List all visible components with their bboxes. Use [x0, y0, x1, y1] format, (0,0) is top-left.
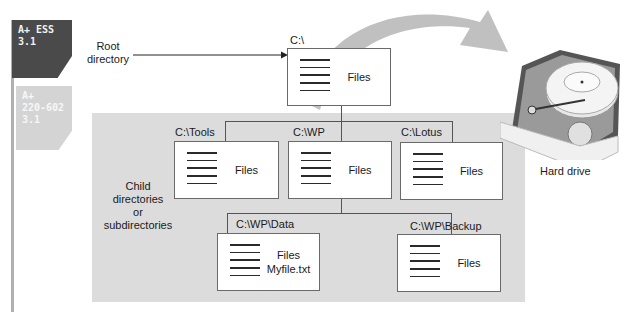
file-list-icon [301, 152, 331, 190]
file-list-icon [300, 59, 330, 97]
arrow-right-icon [133, 50, 289, 60]
directory-box-tools[interactable]: Files [174, 141, 279, 199]
directory-box-lotus[interactable]: Files [400, 142, 503, 200]
badge-title: A+ [22, 90, 66, 102]
file-list-icon [410, 245, 440, 283]
dir-path-wp: C:\WP [293, 126, 325, 138]
dir-path-lotus: C:\Lotus [401, 126, 442, 138]
hard-drive-icon [500, 30, 628, 160]
badge-a-plus-220-602: A+ 220-602 3.1 [16, 86, 72, 150]
file-list-icon [187, 152, 217, 190]
files-label: Files [460, 164, 483, 178]
connector [227, 213, 452, 214]
badge-a-plus-ess: A+ ESS 3.1 [12, 20, 72, 78]
connector [225, 121, 226, 141]
connector [341, 106, 342, 141]
files-label: Files [277, 248, 300, 262]
files-label: Files [457, 256, 480, 270]
badge-section: 3.1 [18, 36, 66, 48]
dir-path-wp-data: C:\WP\Data [236, 218, 294, 230]
badge-title: A+ ESS [18, 24, 66, 36]
file-list-icon [230, 244, 260, 282]
dir-path-root: C:\ [290, 34, 304, 46]
file-list-icon [413, 153, 443, 191]
hard-drive-label: Hard drive [540, 165, 591, 177]
dir-path-tools: C:\Tools [175, 126, 215, 138]
badge-exam: 220-602 [22, 102, 66, 114]
connector [225, 121, 452, 122]
connector [227, 213, 228, 233]
connector [341, 199, 342, 213]
files-label: Files [235, 163, 258, 177]
files-label: Files [347, 70, 370, 84]
root-directory-label: Root directory [86, 40, 130, 66]
file-name: Myfile.txt [267, 262, 310, 276]
files-label: Files [348, 163, 371, 177]
directory-box-wp-data[interactable]: Files Myfile.txt [217, 233, 320, 291]
directory-box-wp[interactable]: Files [288, 141, 392, 199]
dir-path-wp-backup: C:\WP\Backup [410, 220, 482, 232]
directory-box-wp-backup[interactable]: Files [397, 234, 501, 292]
badge-section: 3.1 [22, 114, 66, 126]
directory-box-root[interactable]: Files [287, 48, 391, 106]
connector [452, 121, 453, 142]
child-directories-label: Child directories or subdirectories [100, 180, 176, 232]
